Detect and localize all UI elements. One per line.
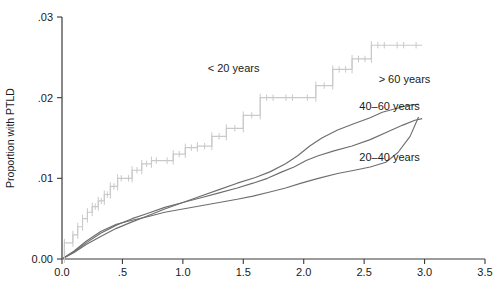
x-tick-label: 1.0	[175, 266, 190, 278]
series-curve-60-years	[62, 104, 419, 259]
x-tick-label: 2.5	[356, 266, 371, 278]
y-tick-label: .03	[38, 11, 53, 23]
series-annotations: < 20 years> 60 years40–60 years20–40 yea…	[208, 62, 431, 163]
x-tick-label: 1.5	[236, 266, 251, 278]
series-annotation-20-40-years: 20–40 years	[359, 151, 420, 163]
y-axis-title-text: Proportion with PTLD	[4, 88, 16, 188]
chart-axes	[62, 17, 485, 259]
x-tick-label: 0.0	[54, 266, 69, 278]
series-annotation-60-years: > 60 years	[379, 73, 431, 85]
series-annotation-20-years: < 20 years	[208, 62, 260, 74]
y-tick-label: .02	[38, 92, 53, 104]
x-tick-label: 3.0	[417, 266, 432, 278]
series-annotation-40-60-years: 40–60 years	[359, 100, 420, 112]
y-axis-title: Proportion with PTLD	[4, 88, 16, 188]
chart-container: 0.0.51.01.52.02.53.03.5 0.00.01.02.03 < …	[0, 0, 504, 285]
x-axis-tick-labels: 0.0.51.01.52.02.53.03.5	[54, 266, 492, 278]
series-curve-40-60-years	[62, 119, 422, 259]
series-curve-20-40-years	[62, 117, 419, 259]
ptld-incidence-chart: 0.0.51.01.52.02.53.03.5 0.00.01.02.03 < …	[0, 0, 504, 285]
y-tick-label: .01	[38, 172, 53, 184]
x-tick-label: 2.0	[296, 266, 311, 278]
y-axis-tick-labels: 0.00.01.02.03	[32, 11, 53, 265]
x-tick-label: .5	[118, 266, 127, 278]
x-tick-label: 3.5	[477, 266, 492, 278]
y-tick-label: 0.00	[32, 253, 53, 265]
